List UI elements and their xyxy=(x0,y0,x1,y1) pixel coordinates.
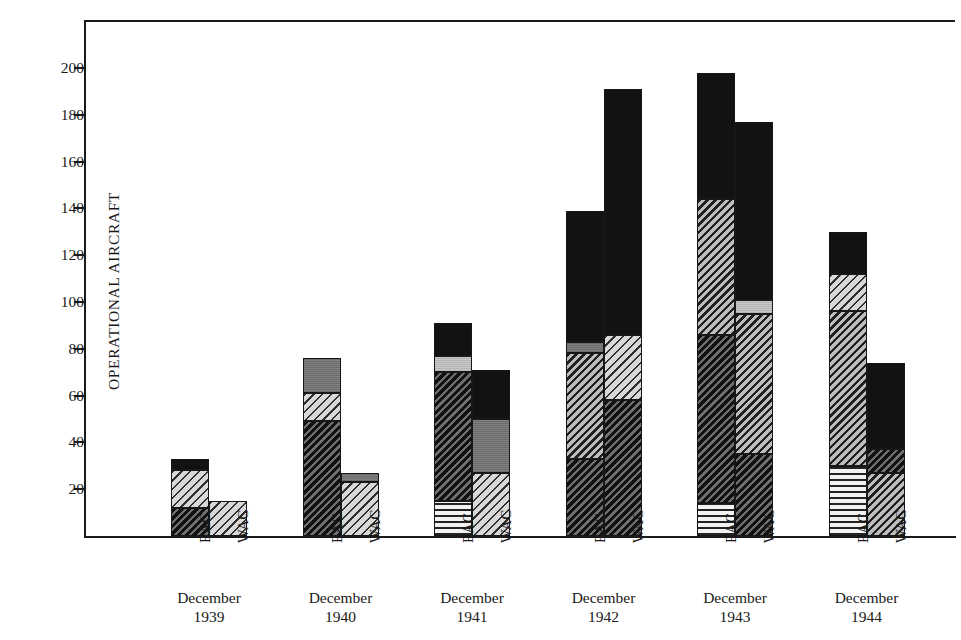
series-label-eac: EAC xyxy=(723,513,740,544)
series-label-eac: EAC xyxy=(592,513,609,544)
stacked-bar xyxy=(566,211,604,536)
group-label-month: December xyxy=(281,588,401,607)
series-label-wac: WAC xyxy=(235,509,252,543)
x-axis-baseline xyxy=(84,536,956,538)
group-label: December1940 xyxy=(281,588,401,626)
group-label-year: 1941 xyxy=(412,607,532,626)
series-label-eac: EAC xyxy=(329,513,346,544)
bar-segment xyxy=(171,459,209,471)
bar-segment xyxy=(303,393,341,421)
bar-segment xyxy=(697,335,735,503)
bar-segment xyxy=(434,356,472,372)
group-label: December1943 xyxy=(675,588,795,626)
stacked-bar xyxy=(303,358,341,536)
group-label: December1944 xyxy=(807,588,927,626)
group-label-month: December xyxy=(675,588,795,607)
group-label-year: 1940 xyxy=(281,607,401,626)
group-label-year: 1943 xyxy=(675,607,795,626)
series-label-wac: WAC xyxy=(761,509,778,543)
series-label-eac: EAC xyxy=(460,513,477,544)
bar-segment xyxy=(171,470,209,507)
stacked-bar xyxy=(604,89,642,536)
series-label-wac: WAC xyxy=(893,509,910,543)
bar-segment xyxy=(303,358,341,393)
bar-segment xyxy=(697,199,735,335)
bar-segment xyxy=(341,473,379,482)
bar-segment xyxy=(697,73,735,199)
group-label: December1942 xyxy=(544,588,664,626)
bar-segment xyxy=(566,342,604,354)
stacked-bar xyxy=(697,73,735,536)
series-label-wac: WAC xyxy=(498,509,515,543)
group-label: December1941 xyxy=(412,588,532,626)
group-label-month: December xyxy=(412,588,532,607)
stacked-bar xyxy=(735,122,773,536)
series-label-eac: EAC xyxy=(855,513,872,544)
series-label-eac: EAC xyxy=(197,513,214,544)
bar-segment xyxy=(472,370,510,419)
bar-segment xyxy=(735,122,773,300)
bar-segment xyxy=(434,323,472,356)
bar-segment xyxy=(604,335,642,401)
bar-segment xyxy=(472,419,510,473)
bar-segment xyxy=(604,89,642,335)
group-label-month: December xyxy=(149,588,269,607)
series-label-wac: WAC xyxy=(630,509,647,543)
bar-segment xyxy=(566,353,604,458)
bar-segment xyxy=(867,449,905,472)
bar-segment xyxy=(735,314,773,454)
bar-segment xyxy=(566,211,604,342)
stacked-bar xyxy=(434,323,472,536)
group-label-month: December xyxy=(544,588,664,607)
bar-segment xyxy=(867,363,905,450)
bar-segment xyxy=(829,274,867,311)
group-label-year: 1939 xyxy=(149,607,269,626)
bar-segment xyxy=(735,300,773,314)
series-label-wac: WAC xyxy=(367,509,384,543)
stacked-bar xyxy=(829,232,867,536)
bar-segment xyxy=(434,372,472,501)
group-label-year: 1944 xyxy=(807,607,927,626)
chart-figure: OPERATIONAL AIRCRAFT 2040608010012014016… xyxy=(0,0,961,640)
bar-segment xyxy=(829,232,867,274)
bar-segment xyxy=(829,311,867,465)
group-label: December1939 xyxy=(149,588,269,626)
plot-area-frame xyxy=(84,20,955,538)
group-label-year: 1942 xyxy=(544,607,664,626)
group-label-month: December xyxy=(807,588,927,607)
